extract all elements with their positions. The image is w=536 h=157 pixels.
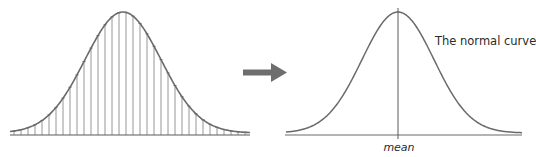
right-arrow-icon xyxy=(243,63,287,82)
normal-curve-panel xyxy=(285,8,522,139)
normal-curve-label: The normal curve xyxy=(435,34,536,48)
histogram-panel xyxy=(10,12,250,135)
mean-axis-label: mean xyxy=(383,141,415,154)
normal-curve xyxy=(286,12,522,133)
histogram-outline-curve xyxy=(10,12,250,133)
